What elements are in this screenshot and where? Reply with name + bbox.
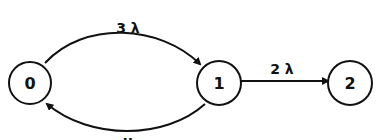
- edge-label-1-to-0: μ: [123, 133, 133, 140]
- state-node-1: 1: [197, 61, 241, 105]
- node-label: 1: [213, 74, 224, 93]
- state-node-2: 2: [328, 61, 372, 105]
- state-node-0: 0: [9, 62, 51, 104]
- state-diagram: 3 λ μ 2 λ 0 1 2: [0, 0, 379, 140]
- edge-label-1-to-2: 2 λ: [270, 61, 294, 77]
- edge-0-to-1: [45, 33, 200, 64]
- edge-label-0-to-1: 3 λ: [116, 20, 140, 36]
- edge-1-to-0: [47, 104, 205, 131]
- node-label: 0: [24, 74, 35, 93]
- node-label: 2: [344, 74, 355, 93]
